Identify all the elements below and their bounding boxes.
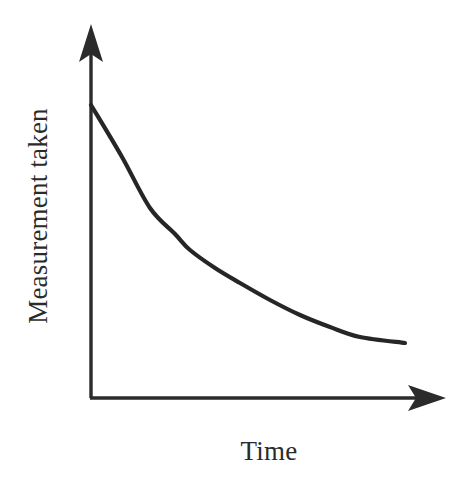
y-axis-label: Measurement taken — [23, 108, 54, 324]
x-axis-label: Time — [241, 436, 298, 467]
exponential-decay-figure: Measurement taken Time — [0, 0, 467, 479]
plot-canvas — [0, 0, 467, 479]
decay-curve — [91, 105, 405, 343]
